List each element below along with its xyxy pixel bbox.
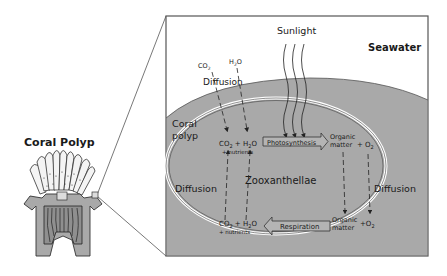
respiration-outputs: CO2 + H2O: [219, 220, 257, 229]
diffusion-right-label: Diffusion: [374, 183, 416, 194]
organic-matter-top-1: Organic: [330, 133, 356, 141]
sunlight-label: Sunlight: [277, 25, 316, 36]
organic-matter-top-2: matter: [330, 141, 352, 149]
organic-matter-bottom-2: matter: [332, 224, 354, 232]
respiration-nutrients: + nutrients: [219, 229, 250, 235]
photosynthesis-nutrients: + nutrients: [222, 149, 253, 155]
organic-matter-bottom-1: Organic: [332, 216, 358, 224]
respiration-label: Respiration: [280, 223, 319, 231]
zooxanthellae-label: Zooxanthellae: [245, 175, 316, 186]
coral-polyp-title: Coral Polyp: [24, 136, 95, 149]
diffusion-left-label: Diffusion: [175, 183, 217, 194]
coral-label-line2: polyp: [172, 130, 198, 141]
coral-label-line1: Coral: [172, 118, 197, 129]
zoom-lines: [97, 16, 166, 256]
photosynthesis-label: Photosynthesis: [267, 139, 317, 147]
seawater-label: Seawater: [368, 42, 421, 53]
coral-polyp-illustration: [24, 151, 102, 257]
diffusion-top-label: Diffusion: [203, 77, 243, 87]
coral-symbiosis-diagram: Coral Polyp Sunlight Seawater CO2 H2O Di…: [0, 0, 447, 276]
photosynthesis-inputs: CO2 + H2O: [219, 140, 257, 149]
